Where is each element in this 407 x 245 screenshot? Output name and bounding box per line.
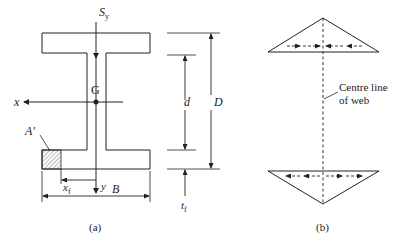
- area-a-prime-label: A': [25, 125, 35, 137]
- xf-label: xf: [63, 182, 71, 193]
- shear-flow-top-triangle: [268, 18, 379, 52]
- centre-line-leader: [324, 92, 338, 99]
- flange-thickness-label: tf: [181, 200, 187, 211]
- shear-flow-bottom-triangle: [268, 171, 379, 204]
- y-axis-label: y: [101, 181, 106, 192]
- caption-a: (a): [89, 222, 101, 233]
- centre-line-label-1: Centre line: [339, 82, 388, 93]
- x-axis-label: x: [14, 96, 19, 108]
- shear-force-label: Sy: [99, 6, 109, 18]
- caption-b: (b): [316, 222, 329, 233]
- centre-line-label-2: of web: [339, 95, 369, 106]
- centroid-label: G: [91, 84, 100, 96]
- total-depth-label: D: [214, 96, 223, 108]
- diagram-canvas: [0, 0, 407, 245]
- centroid-dot: [94, 100, 99, 105]
- flange-width-label: B: [112, 183, 119, 195]
- hatched-area-a-prime: [42, 150, 61, 169]
- web-depth-label: d: [184, 96, 190, 108]
- a-prime-leader: [40, 135, 50, 151]
